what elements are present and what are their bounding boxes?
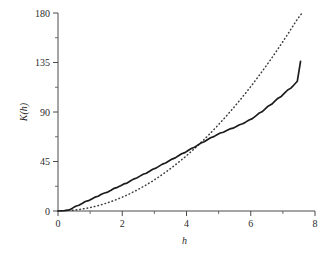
- y-axis-tick-labels: 04590135180: [35, 8, 50, 217]
- y-tick-label: 135: [35, 57, 50, 68]
- chart-figure: 04590135180 02468 h K(h): [0, 0, 333, 256]
- x-axis-ticks: [58, 211, 315, 216]
- y-axis-title: K(h): [18, 102, 30, 122]
- x-axis-title: h: [182, 235, 187, 246]
- x-tick-label: 4: [184, 218, 189, 229]
- series-theoretical-line: [72, 13, 302, 210]
- axes-group: [58, 13, 315, 211]
- y-tick-label: 45: [40, 156, 50, 167]
- x-tick-label: 8: [313, 218, 318, 229]
- k-function-plot: 04590135180 02468 h K(h): [0, 0, 333, 256]
- x-tick-label: 6: [248, 218, 253, 229]
- x-tick-label: 2: [120, 218, 125, 229]
- y-tick-label: 180: [35, 8, 50, 19]
- x-axis-tick-labels: 02468: [56, 218, 318, 229]
- y-tick-label: 0: [45, 206, 50, 217]
- y-tick-label: 90: [40, 107, 50, 118]
- y-axis-ticks: [53, 13, 58, 211]
- series-group: [58, 13, 302, 211]
- series-empirical-line: [58, 61, 301, 211]
- x-tick-label: 0: [56, 218, 61, 229]
